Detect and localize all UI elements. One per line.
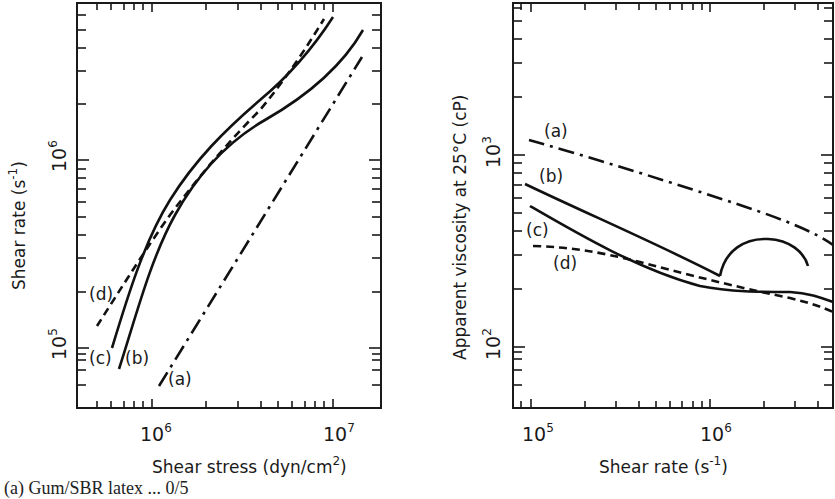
right-label-c: (c) — [526, 220, 549, 240]
right-y-axis-title: Apparent viscosity at 25°C (cP) — [450, 95, 470, 360]
right-y-ticks — [513, 8, 833, 385]
left-label-b: (b) — [125, 348, 149, 368]
right-curve-d — [533, 246, 833, 312]
right-chart: (a) (b) (c) (d) 105 106 102 103 Shear ra… — [450, 3, 833, 477]
left-curve-b — [119, 30, 363, 369]
left-curve-a — [159, 57, 362, 386]
left-label-d: (d) — [89, 284, 113, 304]
left-y-ticks — [77, 15, 381, 385]
right-label-b: (b) — [539, 166, 563, 186]
right-label-a: (a) — [544, 121, 568, 141]
right-x-axis-title: Shear rate (s-1) — [599, 454, 728, 477]
left-label-c: (c) — [89, 348, 112, 368]
left-xtick-1e6: 106 — [140, 421, 172, 445]
left-xtick-1e7: 107 — [323, 421, 355, 445]
right-x-ticks — [521, 3, 818, 408]
left-chart: (a) (b) (c) (d) 106 107 105 106 Shear st… — [6, 3, 381, 477]
left-curve-c — [112, 17, 333, 348]
left-label-a: (a) — [168, 369, 192, 389]
left-ytick-1e6: 106 — [46, 140, 70, 172]
right-plot-frame — [513, 3, 833, 408]
right-xtick-1e5: 105 — [522, 421, 554, 445]
right-xtick-1e6: 106 — [700, 421, 732, 445]
left-y-axis-title: Shear rate (s-1) — [6, 161, 29, 290]
right-ytick-1e2: 102 — [480, 328, 504, 360]
figure-caption: (a) Gum/SBR latex ... 0/5 — [4, 478, 188, 499]
right-label-d: (d) — [553, 253, 577, 273]
right-curve-b-loop — [720, 239, 808, 276]
right-curve-a — [529, 140, 833, 245]
left-plot-frame — [77, 3, 381, 408]
left-ytick-1e5: 105 — [46, 328, 70, 360]
left-x-axis-title: Shear stress (dyn/cm2) — [152, 454, 347, 477]
right-ytick-1e3: 103 — [480, 136, 504, 168]
